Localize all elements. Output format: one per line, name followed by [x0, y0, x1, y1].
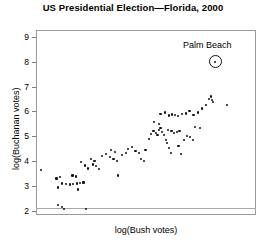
data-point	[210, 95, 212, 97]
y-tick-mark	[32, 211, 36, 212]
data-point	[163, 134, 165, 136]
data-point	[90, 158, 92, 160]
y-tick-mark	[32, 186, 36, 187]
data-point	[75, 175, 77, 177]
data-point	[59, 176, 61, 178]
data-point	[185, 112, 187, 114]
y-tick-label: 3	[13, 182, 29, 190]
data-point	[93, 160, 95, 162]
data-point	[82, 181, 84, 183]
data-point	[116, 160, 118, 162]
y-tick-mark	[32, 111, 36, 112]
data-point	[114, 151, 116, 153]
data-point	[205, 104, 207, 106]
data-point	[171, 113, 173, 115]
data-point	[40, 169, 42, 171]
plot-area	[36, 30, 256, 215]
data-point	[189, 136, 191, 138]
data-point	[55, 177, 57, 179]
data-point	[110, 149, 112, 151]
data-point	[192, 114, 194, 116]
data-point	[76, 182, 78, 184]
data-point	[167, 129, 169, 131]
data-point	[134, 150, 136, 152]
data-point	[188, 110, 190, 112]
data-point	[112, 158, 114, 160]
data-point	[178, 130, 180, 132]
data-point	[183, 139, 185, 141]
scatter-plot-figure: US Presidential Election—Florida, 2000 2…	[0, 0, 266, 246]
y-tick-mark	[32, 136, 36, 137]
data-point	[153, 121, 155, 123]
data-point	[164, 111, 166, 113]
data-point	[159, 113, 161, 115]
y-tick-label: 9	[13, 33, 29, 41]
y-tick-label: 8	[13, 58, 29, 66]
y-tick-mark	[32, 37, 36, 38]
data-point	[170, 152, 172, 154]
data-point	[65, 183, 67, 185]
page-title: US Presidential Election—Florida, 2000	[0, 2, 266, 13]
palm-beach-annotation-label: Palm Beach	[183, 40, 232, 50]
data-point	[168, 114, 170, 116]
baseline-rule	[36, 208, 256, 210]
data-point	[148, 138, 150, 140]
data-point	[165, 139, 167, 141]
data-point	[69, 183, 71, 185]
data-point	[109, 156, 111, 158]
data-point	[71, 174, 73, 176]
data-point	[77, 188, 79, 190]
data-point	[144, 149, 146, 151]
y-axis-label: log(Buchanan votes)	[11, 87, 21, 170]
x-axis-label: log(Bush votes)	[36, 225, 256, 235]
palm-beach-highlight-marker	[209, 55, 222, 68]
y-tick-label: 2	[13, 207, 29, 215]
data-point	[84, 164, 86, 166]
data-point	[201, 107, 203, 109]
data-point	[125, 152, 127, 154]
data-point	[197, 111, 199, 113]
y-tick-mark	[32, 161, 36, 162]
data-point	[140, 158, 142, 160]
y-tick-mark	[32, 62, 36, 63]
data-point	[57, 186, 59, 188]
y-tick-mark	[32, 87, 36, 88]
data-point	[92, 163, 94, 165]
